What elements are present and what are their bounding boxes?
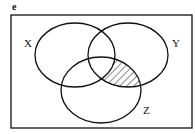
set-y-label: Y	[172, 37, 180, 49]
set-z-label: Z	[143, 104, 150, 116]
set-x-label: X	[24, 37, 32, 49]
panel-label: e	[12, 1, 17, 12]
set-x-circle	[35, 23, 115, 87]
venn-diagram: e X Y Z	[0, 0, 195, 134]
